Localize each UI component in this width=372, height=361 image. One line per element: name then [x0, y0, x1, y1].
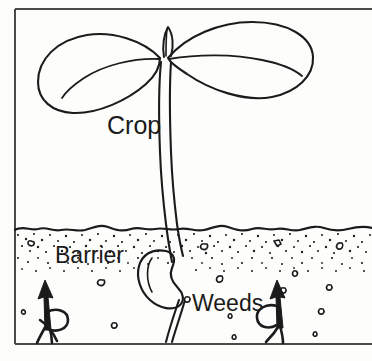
figure-canvas: Crop Barrier Weeds: [0, 0, 372, 361]
label-weeds: Weeds: [192, 290, 263, 316]
figure-background: [0, 0, 372, 361]
label-crop: Crop: [107, 111, 161, 139]
illustration-figure: Crop Barrier Weeds: [0, 0, 372, 361]
label-barrier: Barrier: [55, 242, 124, 268]
